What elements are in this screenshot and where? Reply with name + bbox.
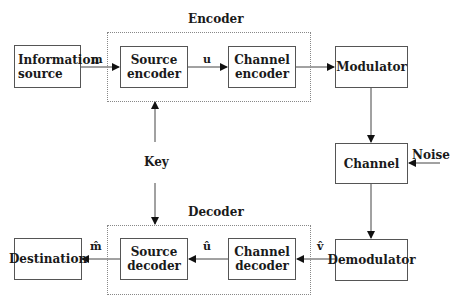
signal-m-hat-label: m̂ [90, 240, 102, 253]
key-label: Key [144, 155, 169, 169]
channel-encoder-block: Channel encoder [228, 46, 296, 88]
demodulator-block: Demodulator [335, 239, 408, 281]
decoder-label: Decoder [188, 205, 244, 219]
signal-m-label: m [91, 53, 103, 66]
channel-block: Channel [335, 143, 408, 184]
signal-v-hat-label: v̂ [317, 240, 323, 253]
channel-decoder-block: Channel decoder [228, 238, 296, 280]
source-encoder-block: Source encoder [120, 46, 188, 88]
source-decoder-block: Source decoder [120, 238, 188, 280]
modulator-block: Modulator [335, 46, 408, 88]
signal-u-label: u [203, 53, 211, 66]
noise-label: Noise [412, 148, 450, 162]
encoder-label: Encoder [188, 12, 244, 26]
destination-block: Destination [14, 238, 82, 280]
signal-u-hat-label: û [203, 240, 211, 253]
information-source-block: Information source [14, 45, 81, 88]
